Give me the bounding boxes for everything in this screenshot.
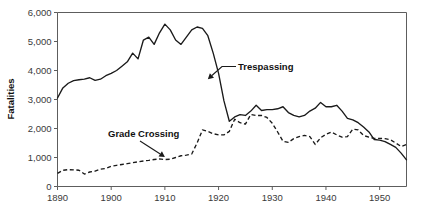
plot-border: [58, 13, 407, 187]
annotation-grade-crossing: Grade Crossing: [108, 128, 179, 157]
y-axis-title: Fatalities: [5, 78, 16, 119]
y-tick-label: 6,000: [28, 7, 52, 18]
x-tick-label: 1890: [47, 192, 68, 203]
y-axis-ticks: [54, 13, 58, 187]
series-group: [58, 24, 407, 174]
x-axis-ticks: [58, 187, 380, 191]
y-tick-label: 5,000: [28, 36, 52, 47]
x-tick-label: 1910: [154, 192, 175, 203]
x-tick-label: 1930: [262, 192, 283, 203]
x-tick-label: 1900: [101, 192, 122, 203]
y-tick-label: 2,000: [28, 123, 52, 134]
grade-crossing-label: Grade Crossing: [108, 128, 179, 139]
series-grade-crossing-line: [58, 115, 407, 174]
y-axis-tick-labels: 01,0002,0003,0004,0005,0006,000: [28, 7, 52, 192]
annotation-trespassing: Trespassing: [208, 61, 294, 79]
series-trespassing-line: [58, 24, 407, 160]
grade-crossing-leader-line: [140, 141, 160, 154]
plot-frame: [58, 13, 407, 187]
trespassing-leader-line: [212, 67, 236, 76]
fatalities-line-chart: 01,0002,0003,0004,0005,0006,000 18901900…: [0, 0, 422, 221]
chart-figure: 01,0002,0003,0004,0005,0006,000 18901900…: [0, 0, 422, 221]
trespassing-label: Trespassing: [238, 61, 294, 72]
x-tick-label: 1940: [315, 192, 336, 203]
y-tick-label: 3,000: [28, 94, 52, 105]
y-tick-label: 4,000: [28, 65, 52, 76]
x-tick-label: 1950: [369, 192, 390, 203]
x-axis-tick-labels: 1890190019101920193019401950: [47, 192, 390, 203]
x-tick-label: 1920: [208, 192, 229, 203]
y-tick-label: 0: [46, 181, 51, 192]
y-tick-label: 1,000: [28, 152, 52, 163]
